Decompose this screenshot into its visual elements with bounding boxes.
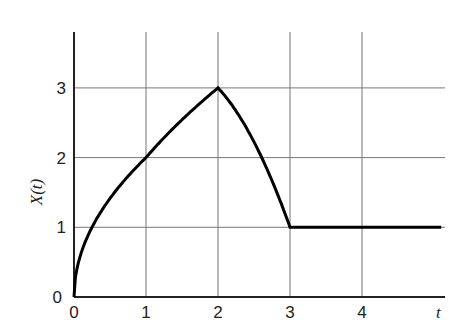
y-tick-label: 1 (57, 218, 66, 237)
x-tick-label: 1 (141, 303, 150, 322)
x-tick-label: 4 (357, 303, 366, 322)
grid-lines (74, 32, 445, 297)
axes (74, 32, 445, 297)
tick-labels: 012340123 (53, 79, 367, 322)
y-tick-label: 0 (53, 288, 62, 307)
x-tick-label: 0 (69, 303, 78, 322)
y-tick-label: 2 (57, 149, 66, 168)
y-axis-label: X(t) (27, 178, 46, 206)
x-tick-label: 2 (213, 303, 222, 322)
y-tick-label: 3 (57, 79, 66, 98)
x-tick-label: 3 (285, 303, 294, 322)
series-line (74, 88, 441, 297)
x-axis-label: t (436, 303, 442, 322)
chart: 012340123 t X(t) (0, 0, 464, 332)
